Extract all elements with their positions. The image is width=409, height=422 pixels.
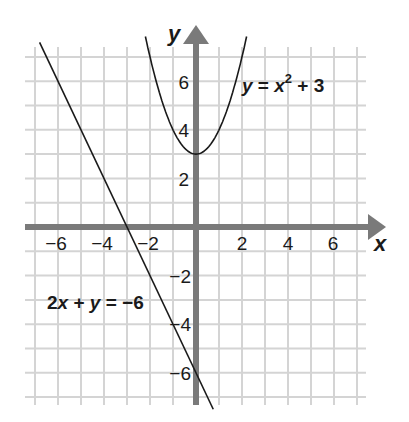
y-tick-label: −2 — [169, 266, 191, 287]
parabola-equation-label: y = x2 + 3 — [241, 71, 324, 96]
eq-coef: 2 — [47, 292, 58, 313]
eq-exponent: 2 — [285, 71, 292, 86]
x-tick-label: 2 — [237, 233, 248, 254]
eq-rest: = −6 — [100, 292, 143, 313]
eq-plus: + — [68, 292, 90, 313]
line-equation-label: 2x + y = −6 — [47, 292, 144, 313]
x-tick-label: −4 — [91, 233, 113, 254]
x-axis-label: x — [373, 231, 387, 256]
y-tick-label: 6 — [178, 72, 189, 93]
eq-equals: = — [253, 75, 275, 96]
eq-rest: + 3 — [292, 75, 324, 96]
coordinate-plane: −6 −4 −2 2 4 6 6 4 2 −2 −4 −6 x y y = x2… — [0, 0, 409, 422]
y-axis-arrow-icon — [183, 25, 209, 44]
x-tick-label: −2 — [137, 233, 159, 254]
x-tick-label: 4 — [283, 233, 294, 254]
y-tick-label: −4 — [169, 314, 191, 335]
x-tick-label: 6 — [328, 233, 339, 254]
y-tick-label: −6 — [169, 363, 191, 384]
y-tick-label: 2 — [178, 169, 189, 190]
x-tick-label: −6 — [45, 233, 67, 254]
y-axis-label: y — [167, 21, 182, 46]
y-tick-label: 4 — [178, 120, 189, 141]
